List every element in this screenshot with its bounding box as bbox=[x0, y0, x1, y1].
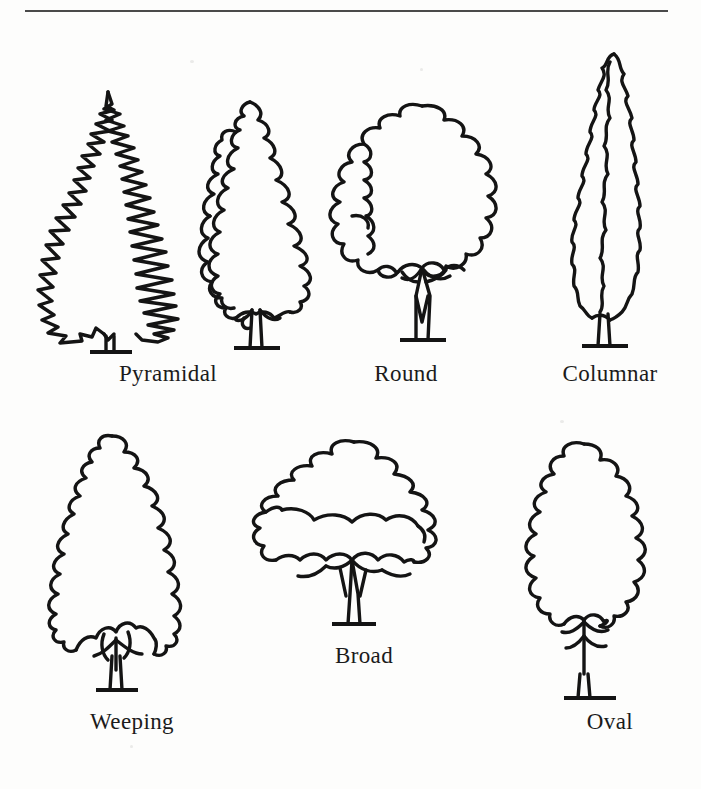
label-round: Round bbox=[358, 362, 454, 385]
scan-speck bbox=[420, 68, 423, 71]
figure-page: Pyramidal Round Columnar Weeping Broad O… bbox=[0, 0, 701, 789]
tree-pyramidal-conifer bbox=[36, 84, 186, 354]
tree-pyramidal-broadleaf bbox=[176, 96, 336, 358]
label-weeping: Weeping bbox=[74, 710, 190, 733]
tree-round bbox=[318, 96, 528, 358]
tree-oval bbox=[500, 436, 672, 716]
scan-speck bbox=[560, 420, 564, 423]
tree-weeping bbox=[16, 428, 212, 700]
label-pyramidal: Pyramidal bbox=[105, 362, 231, 385]
scan-speck bbox=[190, 60, 194, 63]
tree-columnar bbox=[552, 48, 664, 362]
label-broad: Broad bbox=[322, 644, 406, 667]
label-oval: Oval bbox=[576, 710, 644, 733]
tree-broad bbox=[234, 434, 478, 640]
scan-speck bbox=[130, 745, 133, 748]
top-rule bbox=[25, 10, 668, 12]
label-columnar: Columnar bbox=[548, 362, 672, 385]
